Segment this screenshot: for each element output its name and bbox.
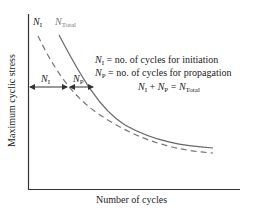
n-initiation-interval-label: NI xyxy=(41,74,50,86)
legend-initiation: NI = no. of cycles for initiation xyxy=(95,55,218,67)
y-axis-label: Maximum cyclic stress xyxy=(6,46,17,156)
legend-equation: NI + NP = NTotal xyxy=(138,82,200,94)
legend-propagation: NP = no. of cycles for propagation xyxy=(95,68,231,80)
n-propagation-interval-label: NP xyxy=(73,74,84,86)
n-initiation-curve-label: NI xyxy=(33,17,42,29)
x-axis-label: Number of cycles xyxy=(96,194,167,205)
n-total-curve-label: NTotal xyxy=(55,17,76,29)
diagram-canvas xyxy=(0,0,253,211)
